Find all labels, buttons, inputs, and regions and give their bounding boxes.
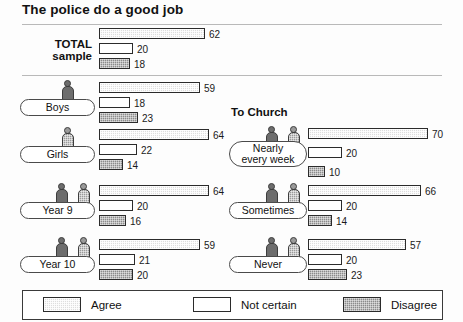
group-label-total-sample: TOTAL sample <box>30 38 92 62</box>
bar-value-never-disagree: 23 <box>351 270 362 281</box>
bar-girls-disagree <box>99 159 123 170</box>
chart-figure: The police do a good job To Church TOTAL… <box>0 0 463 322</box>
bar-value-year10-agree: 59 <box>204 240 215 251</box>
legend-item-disagree: Disagree <box>343 297 437 312</box>
bar-sometimes-disagree <box>308 215 332 226</box>
group-label-nearly-every-week[interactable]: Nearly every week <box>229 141 307 167</box>
bar-value-never-notcertain: 20 <box>346 255 357 266</box>
bar-value-boys-agree: 59 <box>204 83 215 94</box>
legend: Agree Not certain Disagree <box>22 290 443 320</box>
bar-year9-disagree <box>99 215 126 226</box>
legend-label-agree: Agree <box>91 299 122 311</box>
bar-value-year9-agree: 64 <box>213 186 224 197</box>
bar-never-disagree <box>308 269 347 280</box>
legend-swatch-disagree <box>343 297 381 312</box>
bar-total-disagree <box>99 58 130 69</box>
legend-swatch-not-certain <box>193 297 231 312</box>
bar-value-sometimes-disagree: 14 <box>336 216 347 227</box>
bar-value-sometimes-notcertain: 20 <box>346 201 357 212</box>
bar-value-total-disagree: 18 <box>134 59 145 70</box>
group-label-girls[interactable]: Girls <box>20 146 95 163</box>
bar-sometimes-agree <box>308 185 421 196</box>
divider-total <box>22 75 442 76</box>
bar-boys-agree <box>99 82 200 93</box>
bar-year9-notcertain <box>99 200 133 211</box>
group-label-never[interactable]: Never <box>229 256 307 273</box>
bar-year10-agree <box>99 239 200 250</box>
page-title: The police do a good job <box>22 2 183 17</box>
bar-value-total-notcertain: 20 <box>137 44 148 55</box>
group-label-line-2: every week <box>241 154 294 165</box>
legend-swatch-agree <box>43 297 81 312</box>
bar-weekly-disagree <box>308 166 325 177</box>
bar-value-girls-notcertain: 22 <box>141 145 152 156</box>
bar-value-boys-disagree: 23 <box>142 113 153 124</box>
group-label-year-10[interactable]: Year 10 <box>20 256 95 273</box>
bar-year9-agree <box>99 185 209 196</box>
bar-boys-disagree <box>99 112 138 123</box>
group-label-year-9[interactable]: Year 9 <box>20 202 95 219</box>
legend-item-not-certain: Not certain <box>193 297 297 312</box>
bar-year10-disagree <box>99 269 133 280</box>
bar-boys-notcertain <box>99 97 130 108</box>
bar-value-year9-notcertain: 20 <box>137 201 148 212</box>
bar-value-weekly-disagree: 10 <box>329 167 340 178</box>
legend-label-not-certain: Not certain <box>241 299 297 311</box>
bar-value-weekly-notcertain: 20 <box>346 148 357 159</box>
group-label-sometimes[interactable]: Sometimes <box>229 202 307 219</box>
bar-girls-agree <box>99 129 209 140</box>
bar-weekly-notcertain <box>308 147 342 158</box>
bar-value-year10-disagree: 20 <box>137 270 148 281</box>
bar-value-year9-disagree: 16 <box>130 216 141 227</box>
bar-total-agree <box>99 28 205 39</box>
bar-value-weekly-agree: 70 <box>432 129 443 140</box>
bar-value-boys-notcertain: 18 <box>134 98 145 109</box>
bar-girls-notcertain <box>99 144 137 155</box>
bar-value-total-agree: 62 <box>209 29 220 40</box>
bar-value-year10-notcertain: 21 <box>139 255 150 266</box>
section-heading-to-church: To Church <box>231 106 288 118</box>
bar-never-agree <box>308 239 406 250</box>
bar-value-girls-agree: 64 <box>213 130 224 141</box>
legend-item-agree: Agree <box>43 297 122 312</box>
bar-year10-notcertain <box>99 254 135 265</box>
divider-top <box>22 24 442 25</box>
bar-total-notcertain <box>99 43 133 54</box>
bar-sometimes-notcertain <box>308 200 342 211</box>
legend-label-disagree: Disagree <box>391 299 437 311</box>
bar-value-sometimes-agree: 66 <box>425 186 436 197</box>
bar-weekly-agree <box>308 128 428 139</box>
group-label-boys[interactable]: Boys <box>20 99 95 116</box>
bar-value-never-agree: 57 <box>410 240 421 251</box>
bar-value-girls-disagree: 14 <box>127 160 138 171</box>
bar-never-notcertain <box>308 254 342 265</box>
